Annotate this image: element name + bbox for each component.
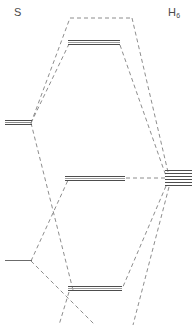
- motop-to-h6-inner-line: [120, 45, 166, 176]
- mo-energy-level-diagram: S H6: [0, 0, 192, 325]
- left-cross-down-line: [31, 123, 73, 290]
- left-lower-to-mobottom-line: [31, 261, 95, 325]
- correlation-lines-group: [31, 18, 169, 325]
- left-to-topcap-outer-line: [31, 18, 70, 123]
- mo-bonding-bottom: [68, 287, 122, 291]
- left-fragment-levels-group: [5, 121, 32, 261]
- right-fragment-label-text: H: [168, 6, 176, 18]
- mo-antibonding-top: [68, 41, 120, 45]
- s-upper-level: [5, 121, 32, 125]
- center-mo-levels-group: [65, 41, 125, 291]
- left-fragment-label: S: [14, 7, 22, 18]
- h6-to-mobottom-outer-line: [122, 186, 166, 289]
- right-fragment-label-subscript: 6: [176, 12, 180, 19]
- right-fragment-label: H6: [168, 7, 180, 18]
- left-to-motop-inner-line: [31, 44, 69, 123]
- mo-nonbonding-middle: [65, 177, 125, 181]
- left-cross-up-line: [31, 178, 69, 261]
- h6-to-below-inner-line: [133, 187, 169, 325]
- mo-diagram-canvas: [0, 0, 192, 325]
- right-fragment-levels-group: [165, 171, 192, 186]
